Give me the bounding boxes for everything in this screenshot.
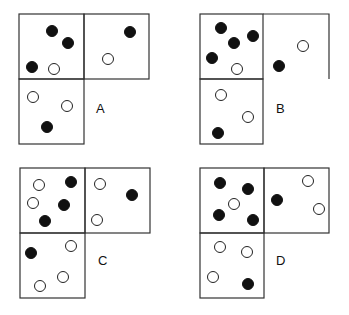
panel-a: A: [19, 14, 149, 144]
panel-a-top-right-filled-dot: [125, 27, 136, 38]
panel-b-bottom-cell: [200, 79, 263, 144]
panel-a-top-right-open-dot: [103, 54, 114, 65]
panel-c-top-right-filled-dot: [127, 190, 138, 201]
panel-c-bottom-open-dot: [35, 281, 46, 292]
panel-b-top-right-cell: [263, 14, 329, 79]
panel-c: C: [20, 168, 150, 298]
panel-d-bottom-cell: [200, 233, 264, 298]
panel-a-label: A: [96, 101, 105, 116]
panel-b-top-right-open-dot: [298, 41, 309, 52]
panel-a-bottom-open-dot: [28, 92, 39, 103]
panel-b-top-left-filled-dot: [248, 31, 259, 42]
panel-d-top-right-open-dot: [303, 176, 314, 187]
panel-d-top-right-filled-dot: [272, 195, 283, 206]
panel-d-top-left-filled-dot: [215, 178, 226, 189]
panel-b-top-left-filled-dot: [229, 38, 240, 49]
panel-a-top-left-filled-dot: [63, 38, 74, 49]
panel-d-bottom-filled-dot: [243, 279, 254, 290]
panel-c-top-left-filled-dot: [40, 216, 51, 227]
panel-a-top-left-open-dot: [49, 64, 60, 75]
panel-d-label: D: [276, 253, 285, 268]
panel-c-bottom-open-dot: [58, 272, 69, 283]
panel-d-bottom-open-dot: [208, 272, 219, 283]
panel-c-top-left-open-dot: [28, 198, 39, 209]
panel-a-top-left-filled-dot: [47, 26, 58, 37]
panel-d: D: [200, 168, 329, 298]
panel-b-top-left-filled-dot: [216, 23, 227, 34]
panel-b-label: B: [276, 101, 285, 116]
panel-d-top-right-open-dot: [314, 204, 325, 215]
panel-c-bottom-filled-dot: [26, 248, 37, 259]
panel-b: B: [200, 14, 329, 144]
panel-a-top-left-filled-dot: [27, 62, 38, 73]
panel-a-top-right-cell: [84, 14, 149, 79]
panel-c-top-left-filled-dot: [59, 200, 70, 211]
panel-c-top-left-filled-dot: [66, 177, 77, 188]
panel-c-top-right-open-dot: [95, 179, 106, 190]
panel-c-label: C: [98, 253, 107, 268]
panel-c-top-right-open-dot: [92, 215, 103, 226]
panel-c-bottom-open-dot: [66, 241, 77, 252]
panel-d-top-left-filled-dot: [248, 215, 259, 226]
panel-a-bottom-filled-dot: [42, 122, 53, 133]
panel-d-top-left-open-dot: [229, 199, 240, 210]
panel-d-bottom-open-dot: [242, 247, 253, 258]
panel-c-dots: [26, 177, 138, 292]
panel-b-bottom-open-dot: [243, 112, 254, 123]
panel-c-top-left-open-dot: [34, 180, 45, 191]
panel-b-dots: [207, 23, 309, 139]
panel-b-top-left-filled-dot: [207, 53, 218, 64]
panel-d-top-left-filled-dot: [214, 210, 225, 221]
panel-d-top-left-filled-dot: [243, 184, 254, 195]
puzzle-diagram: A B C D: [0, 0, 349, 315]
panel-b-top-left-open-dot: [232, 64, 243, 75]
panel-b-bottom-filled-dot: [213, 128, 224, 139]
panel-b-bottom-open-dot: [216, 90, 227, 101]
panel-b-top-right-filled-dot: [274, 61, 285, 72]
panel-a-bottom-open-dot: [62, 101, 73, 112]
panel-d-bottom-open-dot: [215, 242, 226, 253]
panel-a-bottom-cell: [19, 79, 84, 144]
